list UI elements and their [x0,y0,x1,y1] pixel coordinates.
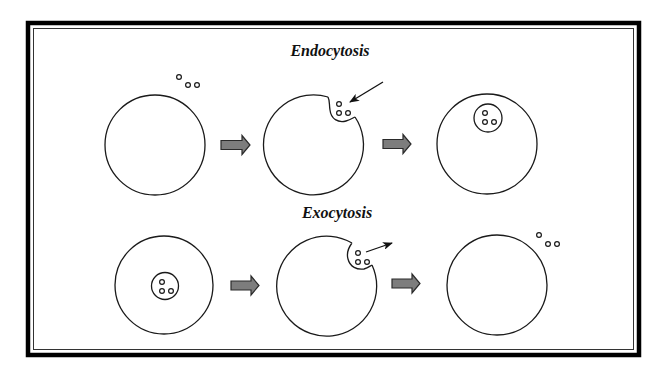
exo-stage-3-cell [447,233,559,335]
particles-icon [356,251,370,265]
endo-stage-3-cell [437,94,537,194]
exo-stage-1-cell [115,236,213,334]
endo-exocytosis-diagram: Endocytosis Exocytosis [0,0,661,373]
step-arrow-icon [383,135,411,154]
step-arrow-icon [392,274,420,293]
vesicle-icon [152,273,179,300]
exo-stage-2-cell [277,236,392,336]
endo-stage-1-cell [105,75,205,195]
step-arrow-icon [221,136,250,155]
exocytosis-title: Exocytosis [301,204,372,222]
endo-stage-2-cell [263,82,383,195]
step-arrow-icon [231,276,259,295]
pointer-arrow-icon [366,243,392,252]
particles-icon [537,233,560,247]
endocytosis-title: Endocytosis [289,42,369,60]
particles-icon [337,102,351,116]
pointer-arrow-icon [350,82,383,102]
vesicle-icon [474,104,502,132]
particles-icon [177,75,200,88]
